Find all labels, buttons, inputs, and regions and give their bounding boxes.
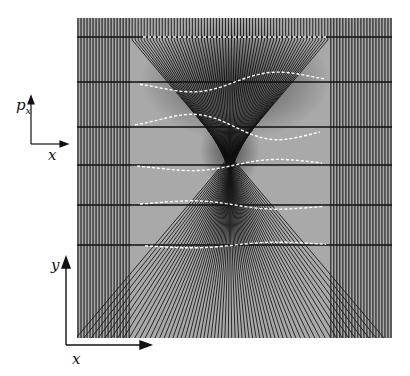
top-x-axis-label: x	[48, 148, 56, 163]
px-axis-label-sub: x	[26, 105, 32, 116]
phase-space-axes	[28, 96, 68, 147]
y-axis-label: y	[51, 258, 59, 273]
bottom-x-axis-label: x	[72, 352, 80, 367]
px-axis-label: px	[16, 98, 31, 116]
px-axis-label-main: p	[16, 96, 26, 114]
ray-caustic-diagram	[0, 0, 410, 376]
